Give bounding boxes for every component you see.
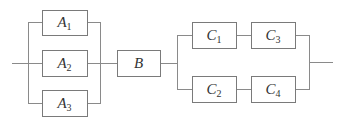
label-letter: C <box>265 27 275 43</box>
label-a2: A2 <box>42 56 87 73</box>
label-c1: C1 <box>192 28 236 45</box>
label-a3: A3 <box>42 96 87 113</box>
label-letter: B <box>134 55 143 71</box>
label-letter: C <box>206 81 216 97</box>
label-subscript: 3 <box>67 102 72 113</box>
label-c4: C4 <box>251 82 295 99</box>
label-letter: A <box>57 55 66 71</box>
label-subscript: 3 <box>276 34 281 45</box>
label-letter: A <box>57 14 66 30</box>
reliability-diagram: A1 A2 A3 B C1 C3 C2 C4 <box>0 0 343 127</box>
label-c2: C2 <box>192 82 236 99</box>
label-subscript: 1 <box>217 34 222 45</box>
label-subscript: 4 <box>276 88 281 99</box>
label-letter: C <box>265 81 275 97</box>
label-b: B <box>117 56 160 71</box>
label-letter: A <box>57 95 66 111</box>
label-subscript: 1 <box>67 21 72 32</box>
label-c3: C3 <box>251 28 295 45</box>
label-subscript: 2 <box>67 62 72 73</box>
label-a1: A1 <box>42 15 87 32</box>
label-subscript: 2 <box>217 88 222 99</box>
label-letter: C <box>206 27 216 43</box>
